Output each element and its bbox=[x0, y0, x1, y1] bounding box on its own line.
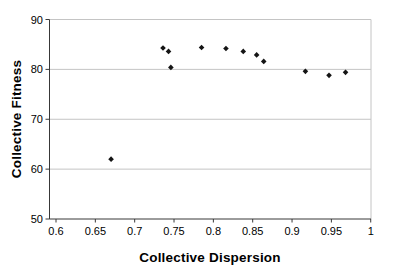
data-point bbox=[240, 49, 246, 55]
scatter-plot: 0.60.650.70.750.80.850.90.9519080706050 bbox=[0, 0, 393, 279]
data-point bbox=[343, 70, 349, 76]
data-point bbox=[108, 156, 114, 162]
x-tick-label: 0.6 bbox=[48, 225, 63, 237]
data-point bbox=[326, 73, 332, 79]
y-tick-label: 70 bbox=[31, 113, 43, 125]
data-point bbox=[223, 46, 229, 52]
chart-container: 0.60.650.70.750.80.850.90.9519080706050 … bbox=[0, 0, 393, 279]
data-point bbox=[254, 52, 260, 58]
x-tick-label: 0.85 bbox=[242, 225, 263, 237]
data-point bbox=[160, 45, 166, 51]
x-tick-label: 1 bbox=[368, 225, 374, 237]
x-axis-title: Collective Dispersion bbox=[49, 250, 371, 265]
x-tick-label: 0.8 bbox=[206, 225, 221, 237]
data-point bbox=[166, 49, 172, 55]
x-tick-label: 0.75 bbox=[163, 225, 184, 237]
x-tick-label: 0.7 bbox=[127, 225, 142, 237]
y-tick-label: 50 bbox=[31, 213, 43, 225]
data-point bbox=[261, 59, 267, 65]
x-tick-label: 0.65 bbox=[85, 225, 106, 237]
x-tick-label: 0.95 bbox=[321, 225, 342, 237]
data-point bbox=[199, 45, 205, 51]
x-tick-label: 0.9 bbox=[284, 225, 299, 237]
y-axis-title: Collective Fitness bbox=[9, 60, 24, 178]
y-tick-label: 80 bbox=[31, 63, 43, 75]
y-tick-label: 90 bbox=[31, 14, 43, 26]
y-tick-label: 60 bbox=[31, 163, 43, 175]
